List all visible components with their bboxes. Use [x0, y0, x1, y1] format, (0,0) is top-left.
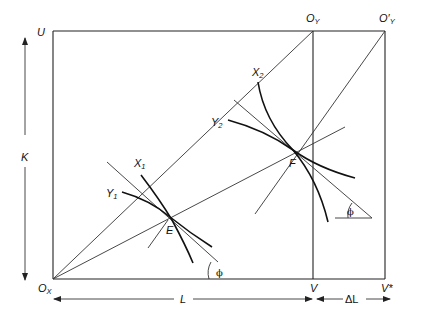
- u-label: U: [37, 26, 45, 38]
- box-outline: [53, 31, 385, 279]
- ray-ox-through-e-f: [53, 127, 345, 279]
- isoquant-x2: [258, 82, 328, 222]
- x1-label: X1: [133, 157, 146, 171]
- rays: [53, 31, 385, 279]
- v-label: V: [310, 282, 319, 294]
- edgeworth-box-diagram: ϕ ϕ E F X1 Y1 X2 Y2 U OX OY O′Y V V* K L: [0, 0, 427, 316]
- angle-arc: [208, 262, 211, 279]
- k-axis-arrow: K: [21, 38, 29, 280]
- oy-label: OY: [306, 12, 321, 26]
- isoquant-y2: [228, 120, 355, 178]
- ray-oy-prime-through-f: [255, 31, 385, 214]
- phi-label-left: ϕ: [216, 267, 223, 278]
- x2-label: X2: [251, 66, 264, 80]
- price-line-f: [234, 100, 372, 218]
- phi-angle-left: ϕ: [208, 262, 223, 279]
- l-axis-arrow: L: [54, 293, 312, 305]
- point-e-label: E: [166, 224, 174, 236]
- k-label: K: [21, 151, 29, 163]
- point-f-label: F: [289, 157, 297, 169]
- phi-label-right: ϕ: [347, 206, 354, 217]
- l-label: L: [180, 293, 186, 305]
- delta-l-label: ΔL: [345, 293, 358, 305]
- oy-prime-label: O′Y: [379, 12, 396, 26]
- ox-label: OX: [38, 282, 53, 296]
- price-lines: [107, 100, 372, 262]
- delta-l-axis-arrow: ΔL: [317, 293, 390, 305]
- phi-angle-right: ϕ: [335, 203, 372, 218]
- v-star-label: V*: [381, 282, 393, 294]
- isoquants-f: [228, 82, 355, 222]
- y1-label: Y1: [106, 187, 118, 201]
